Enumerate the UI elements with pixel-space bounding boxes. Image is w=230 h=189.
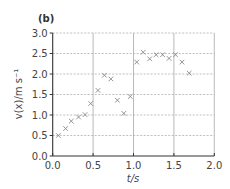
x-marker [69,119,74,124]
x-tick-label: 0.5 [85,160,101,171]
y-axis-ticks: 0.00.51.01.52.02.53.0 [32,28,53,162]
y-tick-label: 0.5 [32,130,48,141]
y-tick-label: 1.0 [32,110,48,121]
x-tick-label: 2.0 [206,160,222,171]
x-marker [141,50,146,55]
x-marker [167,56,172,61]
data-points [56,50,191,138]
x-tick-label: 0.0 [45,160,61,171]
x-marker [180,60,185,65]
y-tick-label: 2.5 [32,48,48,59]
y-tick-label: 3.0 [32,28,48,39]
x-marker [187,71,192,76]
grid-lines [53,33,215,156]
y-tick-label: 0.0 [32,151,48,162]
x-marker [63,126,68,131]
x-marker [76,115,81,120]
x-marker [128,94,133,99]
x-marker [109,77,114,82]
x-marker [134,60,139,65]
x-marker [83,112,88,117]
x-marker [147,57,152,62]
y-tick-label: 1.5 [32,89,48,100]
y-tick-label: 2.0 [32,69,48,80]
y-axis-label: v(x)/m s⁻¹ [13,69,24,119]
scatter-chart: (b) 0.00.51.01.52.0 0.00.51.01.52.02.53.… [0,0,230,189]
x-marker [88,101,93,106]
x-axis-label: t/s [127,173,140,184]
x-tick-label: 1.0 [126,160,142,171]
panel-label: (b) [38,13,54,24]
x-marker [102,73,107,78]
x-marker [96,88,101,93]
x-marker [115,98,120,103]
x-tick-label: 1.5 [166,160,182,171]
